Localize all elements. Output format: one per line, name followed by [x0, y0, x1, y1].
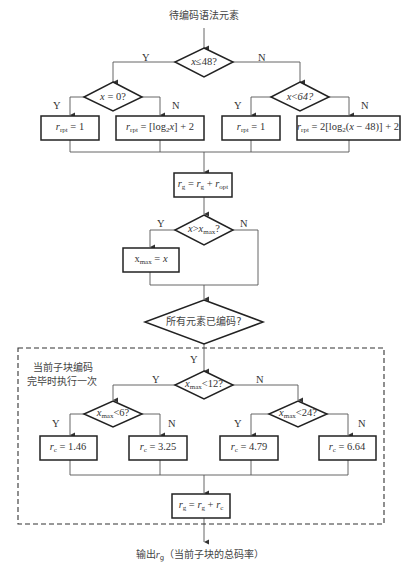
yes-label: Y	[157, 218, 165, 230]
no-label: N	[361, 100, 369, 112]
decision-xmax-lt-24-text: xmax<24?	[279, 407, 317, 422]
yes-label: Y	[53, 100, 61, 112]
rg-plus-rc-box: rg = rg + rc	[179, 499, 224, 514]
ropt-box-4: rrpt = 2[log2(x − 48)] + 2	[297, 121, 399, 136]
rc-box-4: rc = 6.64	[329, 441, 366, 456]
yes-label: Y	[52, 418, 60, 430]
decision-xmax-lt-12-text: xmax<12?	[185, 378, 223, 393]
rg-plus-ropt-box: rg = rg + ropt	[178, 178, 229, 193]
no-label: N	[258, 52, 266, 64]
decision-x-lt-64-text: x<64?	[287, 91, 313, 103]
rc-box-2: rc = 3.25	[140, 441, 177, 456]
no-label: N	[172, 100, 180, 112]
yes-label: Y	[190, 354, 198, 366]
decision-xmax-lt-6-text: xmax<6?	[97, 407, 130, 422]
ropt-box-2: rrpt = [log2x] + 2	[126, 121, 194, 136]
rc-box-3: rc = 4.79	[231, 441, 268, 456]
yes-label: Y	[142, 52, 150, 64]
decision-x-gt-xmax-text: x>xmax?	[188, 223, 220, 238]
note-line-1: 当前子块编码	[33, 362, 93, 374]
rc-box-1: rc = 1.46	[50, 441, 87, 456]
flowchart-lines	[0, 0, 407, 569]
no-label: N	[256, 374, 264, 386]
yes-label: Y	[234, 418, 242, 430]
start-label: 待编码语法元素	[169, 10, 239, 22]
no-label: N	[240, 218, 248, 230]
yes-label: Y	[234, 100, 242, 112]
ropt-box-1: rrpt = 1	[56, 121, 84, 136]
no-label: N	[358, 418, 366, 430]
note-line-2: 完毕时执行一次	[27, 376, 97, 388]
no-label: N	[168, 418, 176, 430]
decision-all-coded-text: 所有元素已编码?	[166, 316, 241, 328]
ropt-box-3: rrpt = 1	[237, 121, 265, 136]
decision-x-le-48-text: x≤48?	[191, 56, 217, 68]
output-label: 输出rg（当前子块的总码率）	[136, 549, 265, 564]
xmax-assign-box: xmax = x	[134, 253, 167, 268]
yes-label: Y	[152, 374, 160, 386]
decision-x-eq-0-text: x = 0?	[100, 91, 126, 103]
